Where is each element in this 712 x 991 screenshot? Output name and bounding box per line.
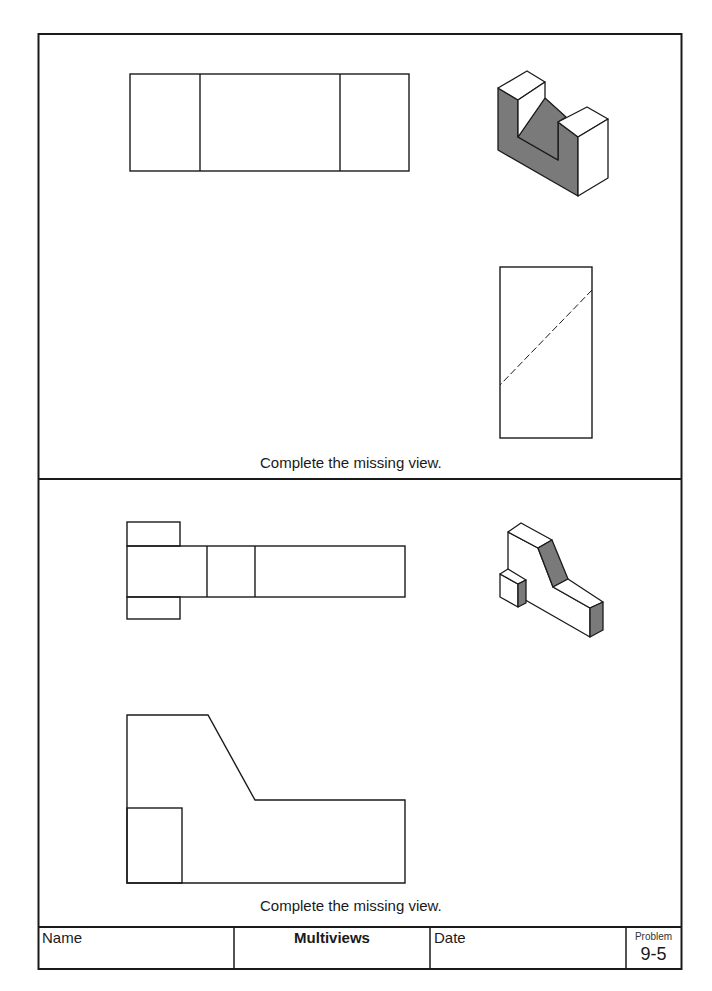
problem-1-side-view <box>500 267 592 438</box>
name-field-label: Name <box>42 929 82 946</box>
problem-2-front-view <box>127 715 405 883</box>
date-field-label: Date <box>434 929 466 946</box>
problem-2-isometric-pictorial <box>500 523 603 637</box>
problem-label: Problem <box>626 931 681 942</box>
problem-2-instruction: Complete the missing view. <box>260 897 442 914</box>
problem-1-isometric-pictorial <box>498 71 608 196</box>
worksheet-title: Multiviews <box>234 929 430 946</box>
problem-1-top-view <box>130 74 409 171</box>
worksheet: Complete the missing view. Complete the … <box>0 0 712 991</box>
worksheet-drawing <box>0 0 712 991</box>
problem-1-instruction: Complete the missing view. <box>260 454 442 471</box>
problem-2-top-view <box>127 522 405 619</box>
problem-number: 9-5 <box>626 944 681 965</box>
